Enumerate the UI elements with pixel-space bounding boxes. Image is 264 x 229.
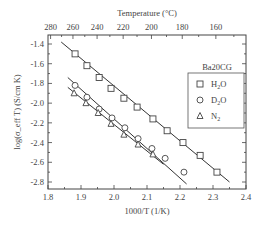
y-tick-label: -2.6 [31, 157, 44, 167]
y-tick-label: -2.4 [31, 138, 45, 148]
x-tick-label: 1.9 [76, 192, 87, 202]
legend-title: Ba20CG [202, 62, 232, 72]
square-marker [214, 169, 220, 175]
top-axis-title: Temperature (°C) [117, 8, 177, 18]
y-tick-label: -2.0 [31, 98, 44, 108]
y-tick-label: -1.8 [31, 78, 44, 88]
x-tick-label: 2.2 [175, 192, 186, 202]
x-tick-label: 2.4 [241, 192, 252, 202]
square-marker [164, 128, 170, 134]
circle-marker [84, 94, 90, 100]
top-tick-label: 160 [209, 22, 222, 32]
circle-marker [122, 125, 128, 131]
square-marker [84, 63, 90, 69]
square-marker [108, 85, 114, 91]
y-tick-label: -2.8 [31, 177, 44, 187]
top-tick-label: 240 [91, 22, 104, 32]
x-tick-label: 2.0 [109, 192, 120, 202]
legend: Ba20CGH2OD2ON2 [188, 62, 244, 128]
circle-marker [72, 82, 78, 88]
circle-marker [162, 155, 168, 161]
square-marker [121, 95, 127, 101]
circle-marker [109, 115, 115, 121]
fit-line-n2 [68, 87, 164, 164]
square-marker [197, 152, 203, 158]
square-marker [72, 51, 78, 57]
top-tick-label: 260 [67, 22, 80, 32]
y-tick-label: -2.2 [31, 118, 44, 128]
top-tick-label: 180 [176, 22, 189, 32]
y-tick-label: -1.6 [31, 59, 44, 69]
x-axis-title: 1000/T (1/K) [125, 206, 170, 216]
square-marker [134, 104, 140, 110]
top-tick-label: 280 [44, 22, 57, 32]
top-tick-label: 200 [145, 22, 158, 32]
x-tick-label: 2.3 [208, 192, 219, 202]
top-tick-label: 220 [117, 22, 130, 32]
square-marker [96, 75, 102, 81]
y-tick-label: -1.4 [31, 39, 45, 49]
circle-marker [181, 169, 187, 175]
circle-marker [149, 145, 155, 151]
legend-square-icon [197, 81, 203, 87]
square-marker [150, 116, 156, 122]
legend-circle-icon [197, 97, 203, 103]
x-tick-label: 2.1 [142, 192, 153, 202]
x-tick-label: 1.8 [43, 192, 54, 202]
y-axis-title: log(σ_eff T) (S/cm K) [12, 74, 22, 149]
arrhenius-plot: 1.81.92.02.12.22.32.4-1.4-1.6-1.8-2.0-2.… [0, 0, 264, 229]
square-marker [180, 140, 186, 146]
